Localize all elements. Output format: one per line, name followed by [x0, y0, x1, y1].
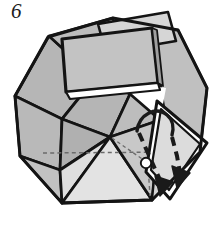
step-number-label: 6	[11, 1, 22, 22]
lifted-top-flap-front	[62, 28, 158, 92]
tuck-target-dot	[141, 158, 151, 168]
origami-step-figure: 6	[0, 0, 222, 227]
origami-diagram-svg	[0, 0, 222, 227]
